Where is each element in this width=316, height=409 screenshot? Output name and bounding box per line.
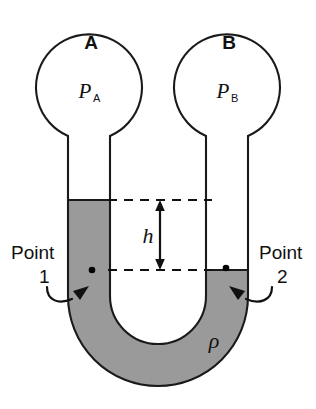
point-two-word: Point	[259, 242, 303, 263]
point-two-leader-line	[246, 287, 272, 302]
bulb-right-label: B	[222, 32, 236, 53]
height-arrowhead-top	[155, 200, 165, 211]
bulb-left-label: A	[84, 32, 98, 53]
point-two-dot	[223, 265, 230, 272]
point-one-number: 1	[39, 266, 50, 287]
fluid-density-symbol: ρ	[208, 328, 220, 353]
pressure-right-symbol: P	[216, 79, 230, 103]
fluid-right-column	[206, 270, 248, 300]
height-dimension: h	[143, 200, 165, 270]
pressure-left-group: P A	[78, 79, 101, 104]
fluid-region	[68, 200, 248, 386]
height-symbol-label: h	[143, 223, 154, 248]
manometer-svg: h A B P A P B ρ Point 1 Point 2	[0, 0, 316, 409]
pressure-left-subscript: A	[93, 92, 101, 104]
fluid-u-bend	[68, 296, 248, 386]
height-arrowhead-bottom	[155, 259, 165, 270]
pressure-right-subscript: B	[231, 92, 238, 104]
point-two-number: 2	[277, 266, 288, 287]
manometer-diagram: h A B P A P B ρ Point 1 Point 2	[0, 0, 316, 409]
fluid-left-column	[68, 200, 110, 300]
point-one-dot	[89, 267, 96, 274]
pressure-right-group: P B	[216, 79, 239, 104]
point-one-word: Point	[11, 242, 55, 263]
pressure-left-symbol: P	[78, 79, 92, 103]
